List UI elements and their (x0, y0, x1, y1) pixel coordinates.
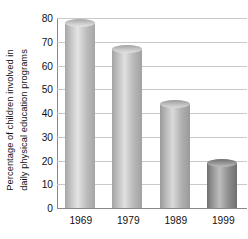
y-tick-label: 0 (5, 203, 57, 214)
bar-body (160, 104, 190, 209)
y-tick-label: 70 (5, 36, 57, 47)
bar-top-ellipse (160, 100, 190, 108)
x-tick-label: 1989 (152, 215, 200, 226)
y-tick-label: 50 (5, 84, 57, 95)
bar (207, 163, 237, 208)
y-tick-label: 20 (5, 155, 57, 166)
y-tick-label: 40 (5, 108, 57, 119)
x-axis-tick-labels: 1969197919891999 (57, 212, 247, 234)
y-tick-label: 60 (5, 60, 57, 71)
bar-body (65, 23, 95, 208)
y-tick-label: 10 (5, 179, 57, 190)
bar (160, 104, 190, 209)
y-tick-label: 30 (5, 131, 57, 142)
bar (65, 23, 95, 208)
bar-body (207, 163, 237, 208)
x-tick-label: 1999 (200, 215, 248, 226)
plot-area (57, 18, 247, 208)
x-axis-line (57, 208, 247, 209)
bar-body (112, 49, 142, 208)
x-tick-label: 1969 (57, 215, 105, 226)
bar-top-ellipse (112, 45, 142, 53)
bar (112, 49, 142, 208)
y-axis-tick-labels: 01020304050607080 (0, 18, 57, 208)
y-tick-label: 80 (5, 13, 57, 24)
x-tick-label: 1979 (105, 215, 153, 226)
bar-chart: Percentage of children involved in daily… (0, 0, 247, 239)
bar-top-ellipse (65, 19, 95, 27)
bar-top-ellipse (207, 159, 237, 167)
